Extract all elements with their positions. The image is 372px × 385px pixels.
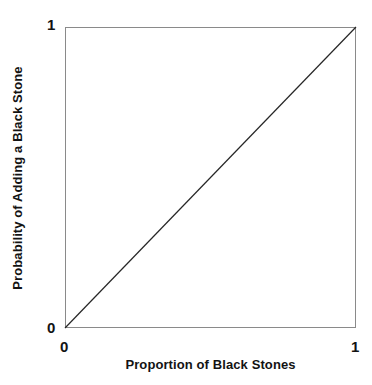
y-axis-label: Probability of Adding a Black Stone	[10, 66, 25, 289]
y-axis-tick-min: 0	[47, 320, 55, 335]
chart-figure: 1 0 0 1 Proportion of Black Stones Proba…	[0, 0, 372, 385]
series-identity	[65, 27, 356, 328]
y-axis-tick-max: 1	[47, 17, 55, 32]
x-axis-tick-min: 0	[60, 339, 68, 354]
x-axis-label: Proportion of Black Stones	[65, 357, 356, 372]
plot-data-layer	[65, 27, 356, 328]
y-axis-label-container: Probability of Adding a Black Stone	[0, 27, 34, 328]
x-axis-tick-max: 1	[351, 339, 359, 354]
